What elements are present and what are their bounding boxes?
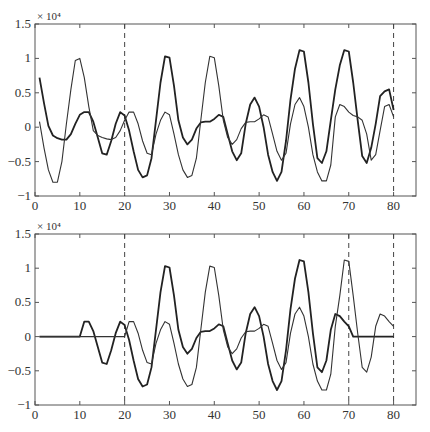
bottom-panel: 01020304050607080−1−0.500.511.5× 10⁴	[7, 220, 416, 422]
x-tick-label: 20	[118, 198, 131, 213]
x-tick-label: 30	[163, 198, 176, 213]
y-tick-label: −1	[17, 397, 31, 412]
x-tick-label: 50	[253, 198, 266, 213]
x-tick-label: 80	[387, 407, 400, 422]
y-tick-label: 1	[25, 260, 32, 275]
series-line-thin	[40, 260, 394, 390]
y-tick-label: 1.5	[15, 16, 31, 31]
y-exponent-label: × 10⁴	[37, 220, 61, 232]
x-tick-label: 10	[73, 198, 86, 213]
x-tick-label: 30	[163, 407, 176, 422]
top-panel: 01020304050607080−1−0.500.511.5× 10⁴	[7, 10, 416, 213]
y-tick-label: 1	[25, 50, 32, 65]
x-tick-label: 70	[342, 407, 355, 422]
y-tick-label: 0.5	[15, 85, 31, 100]
x-tick-label: 60	[297, 407, 310, 422]
y-tick-label: 0.5	[15, 294, 31, 309]
y-tick-label: 1.5	[15, 226, 31, 241]
y-tick-label: 0	[25, 119, 32, 134]
x-tick-label: 80	[387, 198, 400, 213]
x-tick-label: 50	[253, 407, 266, 422]
x-tick-label: 40	[208, 407, 221, 422]
figure: 01020304050607080−1−0.500.511.5× 10⁴0102…	[0, 0, 430, 432]
x-tick-label: 0	[32, 407, 39, 422]
x-tick-label: 0	[32, 198, 39, 213]
axes-frame	[35, 234, 416, 405]
y-tick-label: −1	[17, 188, 31, 203]
y-tick-label: 0	[25, 329, 32, 344]
x-tick-label: 20	[118, 407, 131, 422]
x-tick-label: 10	[73, 407, 86, 422]
y-exponent-label: × 10⁴	[37, 10, 61, 22]
x-tick-label: 60	[297, 198, 310, 213]
y-tick-label: −0.5	[7, 363, 31, 378]
axes-frame	[35, 24, 416, 196]
x-tick-label: 40	[208, 198, 221, 213]
y-tick-label: −0.5	[7, 154, 31, 169]
x-tick-label: 70	[342, 198, 355, 213]
